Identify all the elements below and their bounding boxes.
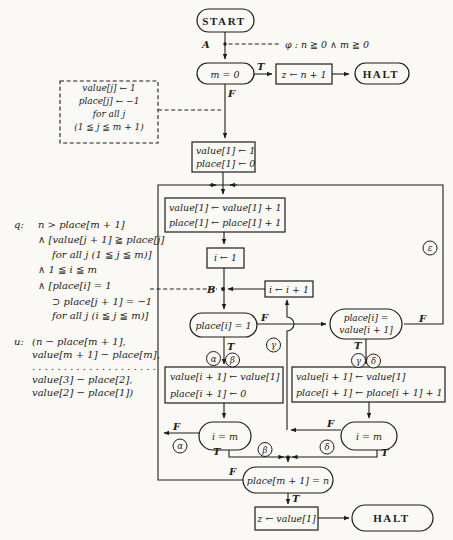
bump-line1: value[1] ← value[1] + 1 — [169, 202, 282, 213]
set-i-label: i ← 1 — [214, 252, 237, 263]
inc-i-label: i ← i + 1 — [269, 284, 309, 295]
start-label: START — [202, 15, 245, 27]
left-assign-line2: place[i + 1] ← 0 — [170, 388, 246, 399]
q-label: q: — [14, 219, 24, 230]
cutpoint-a-label: A — [201, 39, 210, 50]
beta-label-2: β — [262, 445, 268, 455]
epsilon-label: ε — [428, 243, 433, 253]
cutpoint-b-dot — [221, 287, 225, 291]
right-assign-line1: value[i + 1] ← value[1] — [296, 371, 406, 382]
u-line-1: (n − place[m + 1], — [32, 336, 126, 347]
init-note-line1: value[j] ← 1 — [82, 83, 135, 93]
right-i-m-label: i = m — [356, 431, 382, 442]
cutpoint-a-dot — [223, 42, 226, 45]
alpha-label-1: α — [211, 354, 217, 364]
u-line-4: value[3] − place[2], — [32, 374, 133, 385]
u-line-2: value[m + 1] − place[m], — [32, 349, 160, 360]
beta-label-1: β — [229, 355, 235, 365]
init-line1: value[1] ← 1 — [196, 145, 255, 156]
branch-false-5: F — [326, 418, 335, 429]
init-note-line3: for all j — [92, 109, 126, 119]
halt-bottom-label: HALT — [373, 512, 410, 524]
phi-assertion: φ : n ≧ 0 ∧ m ≧ 0 — [285, 39, 369, 50]
branch-false-3: F — [172, 421, 181, 432]
bottom-junction-dot — [286, 455, 289, 458]
test-place-value-line1: place[i] = — [344, 313, 389, 323]
assign-z-n1-label: z ← n + 1 — [280, 69, 326, 80]
scanned-flowchart-page: START A φ : n ≧ 0 ∧ m ≧ 0 m = 0 T z ← n … — [0, 0, 453, 540]
left-i-m-label: i = m — [212, 431, 238, 442]
branch-false-4: F — [418, 313, 427, 324]
left-assign-line1: value[i + 1] ← value[1] — [170, 371, 280, 382]
q-line-1: n > place[m + 1] — [38, 219, 125, 230]
flowchart-canvas: START A φ : n ≧ 0 ∧ m ≧ 0 m = 0 T z ← n … — [0, 0, 453, 540]
init-note-line4: (1 ≦ j ≦ m + 1) — [74, 122, 144, 132]
branch-true-2: T — [227, 341, 236, 352]
delta-label-2: δ — [324, 442, 329, 452]
q-line-5: ∧ [place[i] = 1 — [38, 280, 112, 291]
q-line-2: ∧ [value[j + 1] ≧ place[j] — [38, 234, 164, 245]
branch-true-4: T — [354, 340, 363, 351]
test-m-zero-label: m = 0 — [210, 69, 239, 80]
init-note-line2: place[j] ← −1 — [79, 96, 140, 106]
q-line-4: ∧ 1 ≦ i ≦ m — [38, 264, 97, 275]
u-label: u: — [14, 336, 24, 347]
delta-label-1: δ — [371, 356, 376, 366]
u-line-5: value[2] − place[1]) — [32, 387, 133, 398]
test-place-value-line2: value[i + 1] — [339, 325, 393, 335]
branch-true-6: T — [292, 493, 301, 504]
q-line-3: for all j (1 ≦ j ≦ m)] — [51, 249, 152, 260]
u-line-dots: . . . . . . . . . . . . . . . . . . . . — [32, 361, 156, 372]
right-assign-line2: place[i + 1] ← place[i + 1] + 1 — [296, 387, 443, 398]
branch-true-1: T — [257, 61, 266, 72]
assertion-annotations: q: n > place[m + 1] ∧ [value[j + 1] ≧ pl… — [14, 219, 164, 398]
q-line-7: for all j (i ≦ j ≦ m)] — [51, 310, 149, 321]
assign-z-value-label: z ← value[1] — [256, 513, 316, 524]
branch-false-6: F — [228, 466, 237, 477]
branch-false-1: F — [227, 88, 236, 99]
alpha-label-2: α — [177, 441, 183, 451]
test-place-one-label: place[i] = 1 — [195, 320, 251, 331]
flow-edges — [150, 32, 443, 518]
bump-line2: place[1] ← place[1] + 1 — [169, 217, 281, 228]
q-line-6: ⊃ place[j + 1] = −1 — [52, 296, 152, 307]
init-line2: place[1] ← 0 — [196, 158, 255, 169]
branch-false-2: F — [260, 312, 269, 323]
inner-loop-up-with-bridge — [287, 300, 294, 430]
halt-top-label: HALT — [363, 68, 400, 80]
cutpoint-b-label: B — [206, 284, 215, 295]
test-final-label: place[m + 1] = n — [247, 475, 329, 486]
